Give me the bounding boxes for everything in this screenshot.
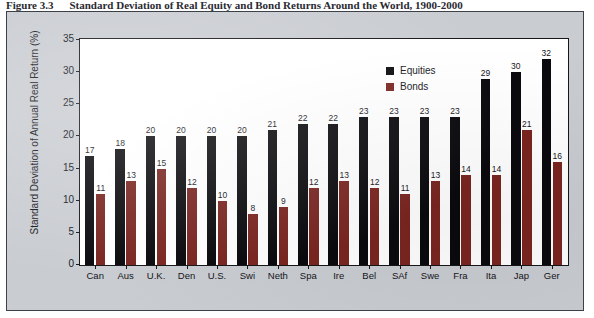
x-axis-label-uk: U.K. — [147, 271, 165, 281]
x-axis-label-can: Can — [87, 271, 104, 281]
figure-caption-text: Standard Deviation of Real Equity and Bo… — [69, 0, 462, 11]
y-axis-tick-mark — [76, 39, 80, 40]
bar-equities-can: 17 — [85, 156, 95, 265]
bar-value-label: 20 — [176, 126, 185, 135]
bar-bonds-swi: 8 — [248, 214, 258, 265]
bar-value-label: 23 — [389, 107, 398, 116]
bar-bonds-ire: 13 — [339, 181, 349, 265]
x-axis-tick-mark — [430, 265, 431, 269]
bar-group: 2312 — [359, 117, 380, 265]
bar-value-label: 12 — [309, 178, 318, 187]
bar-bonds-ita: 14 — [492, 175, 502, 265]
bar-equities-bel: 23 — [359, 117, 369, 265]
bar-value-label: 22 — [328, 114, 337, 123]
bar-bonds-saf: 11 — [400, 194, 410, 265]
figure-panel: Standard Deviation of Annual Real Return… — [6, 11, 584, 311]
x-axis-label-neth: Neth — [268, 271, 288, 281]
bar-group: 2213 — [328, 124, 349, 265]
legend-label: Equities — [400, 65, 436, 76]
bar-equities-saf: 23 — [389, 117, 399, 265]
bar-group: 2212 — [298, 124, 319, 265]
bar-equities-neth: 21 — [268, 130, 278, 265]
figure-number: Figure 3.3 — [6, 0, 53, 11]
bar-value-label: 29 — [481, 69, 490, 78]
bar-value-label: 23 — [359, 107, 368, 116]
x-axis-label-us: U.S. — [208, 271, 226, 281]
bar-equities-swe: 23 — [420, 117, 430, 265]
x-axis-label-spa: Spa — [300, 271, 317, 281]
x-axis-tick-mark — [308, 265, 309, 269]
bar-value-label: 32 — [542, 49, 551, 58]
bar-equities-den: 20 — [176, 136, 186, 265]
y-axis-tick-mark — [76, 200, 80, 201]
bar-value-label: 13 — [339, 171, 348, 180]
y-axis-tick-mark — [76, 232, 80, 233]
bar-bonds-den: 12 — [187, 188, 197, 265]
bar-bonds-can: 11 — [96, 194, 106, 265]
bar-group: 219 — [268, 130, 289, 265]
bar-value-label: 9 — [281, 197, 286, 206]
bar-bonds-swe: 13 — [431, 181, 441, 265]
y-axis-tick-label: 5 — [50, 227, 74, 237]
bar-value-label: 12 — [187, 178, 196, 187]
bar-equities-ger: 32 — [542, 59, 552, 265]
x-axis-tick-mark — [339, 265, 340, 269]
x-axis-tick-mark — [247, 265, 248, 269]
x-axis-label-ita: Ita — [486, 271, 497, 281]
x-axis-tick-mark — [460, 265, 461, 269]
bar-group: 2015 — [146, 136, 167, 265]
bar-bonds-spa: 12 — [309, 188, 319, 265]
bar-value-label: 23 — [450, 107, 459, 116]
x-axis-label-ger: Ger — [544, 271, 560, 281]
bar-equities-jap: 30 — [511, 72, 521, 265]
x-axis-tick-mark — [278, 265, 279, 269]
y-axis-tick-label: 20 — [50, 130, 74, 140]
bar-group: 2914 — [481, 79, 502, 265]
bar-group: 3216 — [542, 59, 563, 265]
y-axis-tick-mark — [76, 103, 80, 104]
bar-value-label: 13 — [431, 171, 440, 180]
bar-value-label: 16 — [553, 152, 562, 161]
bar-equities-uk: 20 — [146, 136, 156, 265]
legend-label: Bonds — [400, 81, 428, 92]
x-axis-tick-mark — [400, 265, 401, 269]
bar-group: 3021 — [511, 72, 532, 265]
y-axis-tick-label: 0 — [50, 259, 74, 269]
bar-equities-ire: 22 — [328, 124, 338, 265]
bar-bonds-neth: 9 — [279, 207, 289, 265]
x-axis-tick-mark — [552, 265, 553, 269]
y-axis-tick-label: 35 — [50, 34, 74, 44]
bar-value-label: 21 — [522, 120, 531, 129]
x-axis-tick-mark — [156, 265, 157, 269]
x-axis-tick-mark — [521, 265, 522, 269]
plot-inner: 051015202530351711Can1813Aus2015U.K.2012… — [80, 39, 568, 265]
x-axis-tick-mark — [187, 265, 188, 269]
bar-bonds-us: 10 — [218, 201, 228, 265]
bar-value-label: 14 — [461, 165, 470, 174]
bar-bonds-jap: 21 — [522, 130, 532, 265]
bar-value-label: 14 — [492, 165, 501, 174]
plot-area: 051015202530351711Can1813Aus2015U.K.2012… — [79, 38, 569, 266]
bar-group: 1813 — [115, 149, 136, 265]
bar-bonds-uk: 15 — [157, 169, 167, 265]
bar-group: 208 — [237, 136, 258, 265]
y-axis-tick-label: 25 — [50, 98, 74, 108]
x-axis-label-aus: Aus — [117, 271, 133, 281]
x-axis-tick-mark — [217, 265, 218, 269]
bar-equities-us: 20 — [207, 136, 217, 265]
bar-value-label: 20 — [146, 126, 155, 135]
x-axis-tick-mark — [491, 265, 492, 269]
bar-value-label: 8 — [251, 204, 256, 213]
x-axis-tick-mark — [126, 265, 127, 269]
bar-value-label: 23 — [420, 107, 429, 116]
bar-value-label: 12 — [370, 178, 379, 187]
y-axis-tick-mark — [76, 168, 80, 169]
y-axis-tick-mark — [76, 264, 80, 265]
chart-legend: EquitiesBonds — [386, 65, 436, 97]
bar-equities-fra: 23 — [450, 117, 460, 265]
bar-value-label: 17 — [85, 146, 94, 155]
bar-group: 2313 — [420, 117, 441, 265]
bar-bonds-fra: 14 — [461, 175, 471, 265]
bar-value-label: 10 — [218, 191, 227, 200]
bar-group: 2311 — [389, 117, 410, 265]
